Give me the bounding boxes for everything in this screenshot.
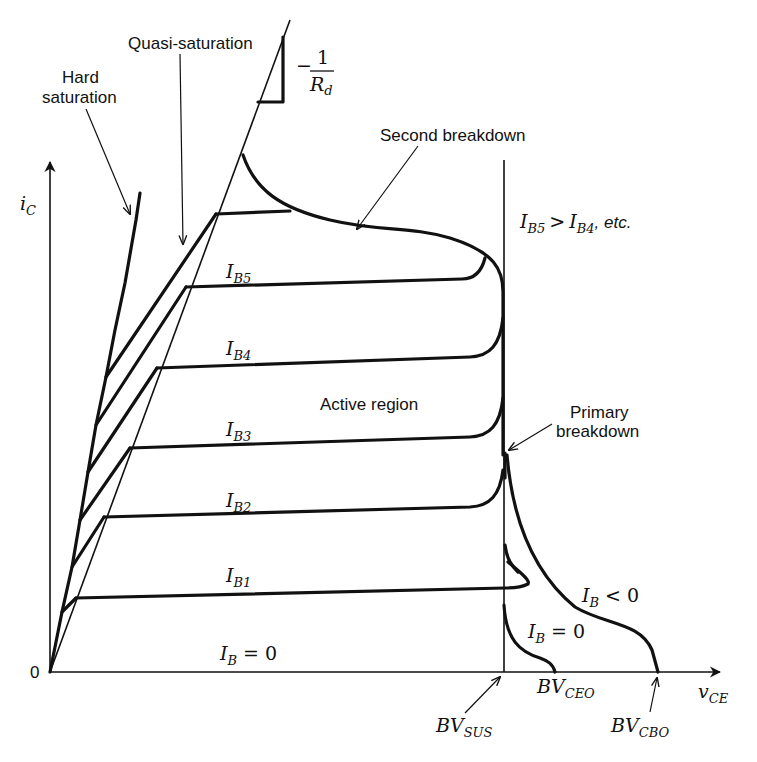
label-bvceo: BVCEO bbox=[536, 675, 595, 701]
label-ib1: IB1 bbox=[225, 564, 251, 590]
x-axis-label: vCE bbox=[698, 680, 729, 706]
y-axis-label: iC bbox=[20, 192, 36, 218]
leader-second-breakdown bbox=[357, 146, 418, 229]
curve-top-segment bbox=[216, 211, 290, 214]
label-ib2: IB2 bbox=[225, 489, 251, 515]
leader-quasi-saturation bbox=[180, 54, 183, 244]
label-ib-zero: IB = 0 bbox=[219, 642, 277, 668]
label-ib5: IB5 bbox=[225, 260, 251, 286]
cropped-caption bbox=[30, 752, 530, 762]
label-ib-zero-breakdown: IB = 0 bbox=[527, 620, 585, 646]
quasi-saturation-hatches bbox=[62, 214, 216, 612]
leader-bvcbo bbox=[650, 678, 657, 712]
slope-denominator: Rd bbox=[309, 73, 333, 98]
label-primary-breakdown-1: Primary bbox=[570, 403, 629, 422]
label-bvcbo: BVCBO bbox=[610, 714, 669, 740]
curve-ib4 bbox=[157, 318, 503, 368]
transistor-characteristics-diagram: iC vCE 0 − 1 Rd IB5 IB4 IB3 IB2 IB1 IB =… bbox=[0, 0, 757, 762]
slope-triangle bbox=[258, 37, 283, 102]
leader-primary-breakdown bbox=[509, 424, 552, 450]
quasi-saturation-boundary bbox=[50, 20, 290, 672]
label-ib-negative: IB < 0 bbox=[581, 584, 639, 610]
origin-label: 0 bbox=[30, 663, 39, 682]
label-quasi-saturation: Quasi-saturation bbox=[128, 34, 253, 53]
curve-ib1 bbox=[76, 562, 528, 598]
label-ib4: IB4 bbox=[225, 337, 251, 363]
label-bvsus: BVSUS bbox=[435, 714, 493, 740]
label-active-region: Active region bbox=[320, 395, 418, 414]
label-hard-saturation-2: saturation bbox=[42, 88, 117, 107]
label-ib3: IB3 bbox=[225, 418, 251, 444]
curve-ib3 bbox=[130, 398, 503, 448]
hard-saturation-line bbox=[50, 193, 140, 672]
leader-bvsus bbox=[465, 677, 500, 713]
curve-ib1-spike bbox=[505, 545, 518, 572]
leader-hard-saturation bbox=[86, 109, 130, 214]
label-ordering-note: IB5>IB4, etc. bbox=[519, 210, 631, 236]
curve-ib2 bbox=[104, 470, 503, 517]
label-primary-breakdown-2: breakdown bbox=[556, 422, 639, 441]
label-hard-saturation-1: Hard bbox=[62, 68, 99, 87]
slope-numerator: 1 bbox=[317, 46, 329, 68]
label-second-breakdown: Second breakdown bbox=[380, 126, 526, 145]
